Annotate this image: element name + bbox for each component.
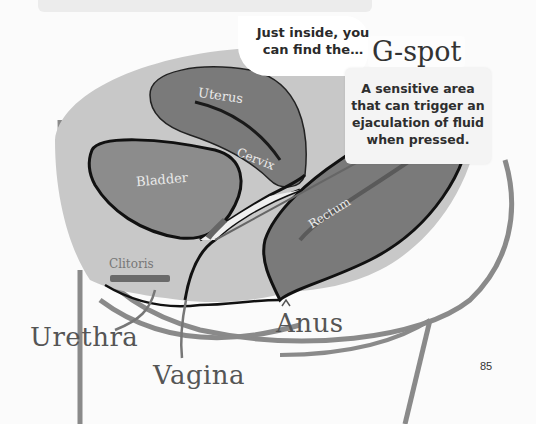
vagina-label: Vagina bbox=[153, 360, 245, 390]
anus-marker bbox=[282, 300, 290, 306]
thigh-outline bbox=[405, 320, 430, 424]
gspot-title: G-spot bbox=[368, 36, 465, 67]
anus-label: Anus bbox=[276, 308, 344, 338]
vagina-leader bbox=[181, 300, 186, 358]
page-number: 85 bbox=[480, 360, 492, 372]
urethra-label: Urethra bbox=[30, 322, 138, 352]
clitoris-label: Clitoris bbox=[109, 257, 154, 271]
clitoris-shape bbox=[110, 275, 170, 282]
callout-intro-text: Just inside, you can find the… bbox=[253, 24, 373, 58]
gspot-description: A sensitive area that can trigger an eja… bbox=[349, 80, 487, 148]
